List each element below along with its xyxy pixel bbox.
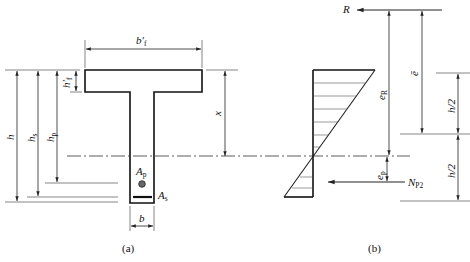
ep-label: ep [373, 171, 387, 180]
caption-b: (b) [368, 242, 381, 255]
stress-diagonal [284, 70, 375, 197]
prestress-tendon-dot [139, 181, 146, 188]
ap-label: Ap [135, 165, 147, 179]
x-label: x [211, 111, 223, 117]
ebar-label: ē [408, 71, 420, 76]
bf-label: b′f [136, 34, 147, 48]
hs-label: hs [25, 134, 39, 143]
np2-label: NP2 [407, 176, 424, 190]
hp-label: hp [44, 133, 58, 143]
panel-b-stress-diagram: R eR ē ep NP2 h/2 h/2 (b) [284, 3, 470, 255]
h-label: h [4, 134, 16, 140]
h-half-bottom-label: h/2 [445, 163, 457, 178]
hf-label: h′f [60, 77, 74, 88]
panel-a-cross-section: b′f h′f h hs hp x Ap As b (a) [4, 34, 238, 255]
r-label: R [342, 3, 350, 15]
prestressed-t-beam-diagram: b′f h′f h hs hp x Ap As b (a) [0, 0, 470, 262]
as-label: As [157, 189, 168, 203]
h-half-top-label: h/2 [445, 98, 457, 113]
er-label: eR [375, 90, 389, 100]
caption-a: (a) [122, 242, 135, 255]
b-label: b [139, 212, 145, 224]
